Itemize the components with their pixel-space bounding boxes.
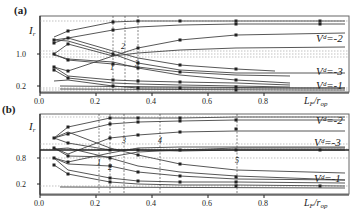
panel-b-annotation-vd-1: Vᵈ=-1 [314,172,341,184]
panel-b-label: (b) [2,103,16,116]
panel-a-xtick-0.8: 0.8 [258,97,268,106]
panel-a-label: (a) [14,4,27,17]
panel-a-annotation-vd-2: Vᵈ=-2 [316,32,343,44]
panel-b-curves [54,117,345,188]
panel-a-ytick-0.2: 0.2 [16,82,26,91]
panel-a-xlabel: LF/rop [303,95,328,108]
panel-b-xtick-0.8: 0.8 [258,199,268,208]
panel-b-annotation-vd-2: Vᵈ=-2 [316,114,343,126]
panel-a-annotation-vd-1: Vᵈ=-1 [316,79,343,91]
figure: (a) Ir 1 2 3 1.0 0.2 [0,0,364,214]
panel-a-ytick-1.0: 1.0 [16,50,26,59]
panel-b-ytick-0.2: 0.2 [16,180,26,189]
panel-b: (b) Ir 1 2 3 4 5 0.8 0.2 [2,103,349,210]
panel-a-xtick-0.6: 0.6 [202,97,212,106]
panel-a-ylabel: Ir [28,24,36,38]
panel-b-xtick-0.4: 0.4 [146,199,156,208]
panel-a-annotation-vd-3: Vᵈ=-3 [316,65,343,77]
panel-b-xtick-0.2: 0.2 [90,199,100,208]
marker-label-2: 2 [121,42,125,51]
panel-b-ytick-0.8: 0.8 [16,154,26,163]
panel-a-xtick-0.0: 0.0 [34,97,44,106]
panel-a-curves [54,21,345,90]
panel-a-xtick-0.2: 0.2 [90,97,100,106]
panel-b-annotation-vd-3: Vᵈ=-3 [314,136,341,148]
panel-b-grid [40,117,349,186]
marker-b-label-5: 5 [235,156,239,165]
panel-b-ylabel: Ir [28,120,36,134]
panel-b-xtick-0.6: 0.6 [202,199,212,208]
panel-b-xlabel: LF/rop [303,197,328,210]
panel-a-xtick-0.4: 0.4 [146,97,156,106]
marker-b-label-4: 4 [158,136,162,145]
panel-b-points [53,117,322,188]
panel-a: (a) Ir 1 2 3 1.0 0.2 [14,4,349,108]
marker-b-label-3: 3 [121,136,126,145]
panel-b-xtick-0.0: 0.0 [34,199,44,208]
